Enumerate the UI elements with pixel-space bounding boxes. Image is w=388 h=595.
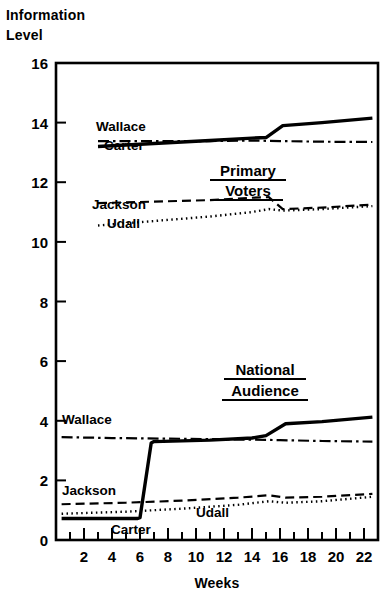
x-tick-label: 20: [328, 548, 345, 565]
y-tick-label: 6: [40, 353, 48, 370]
group-label-national-audience-line1: National: [235, 361, 294, 378]
y-axis-title-line2: Level: [6, 27, 43, 43]
x-axis-title: Weeks: [194, 575, 239, 591]
group-label-national-audience: National Audience: [222, 361, 308, 400]
series-label-udall-primary: Udall: [107, 216, 140, 231]
x-tick-label: 18: [300, 548, 317, 565]
x-tick-label: 4: [108, 548, 117, 565]
x-axis-tick-labels: 246810121416182022: [80, 548, 373, 565]
x-tick-label: 10: [188, 548, 205, 565]
group-label-national-audience-line2: Audience: [231, 382, 299, 399]
y-axis-title-line1: Information: [6, 7, 85, 23]
y-tick-label: 14: [31, 115, 48, 132]
y-tick-label: 10: [31, 234, 48, 251]
y-tick-label: 0: [40, 532, 48, 549]
series-label-jackson-primary: Jackson: [92, 197, 146, 212]
series-label-wallace-primary: Wallace: [96, 119, 146, 134]
group-label-primary-voters-line1: Primary: [220, 162, 277, 179]
chart-svg: Information Level 16 14 12 10 8 6 4 2 0: [0, 0, 388, 595]
series-layer: [62, 118, 373, 518]
x-tick-label: 6: [136, 548, 144, 565]
series-label-wallace-national: Wallace: [62, 412, 112, 427]
x-tick-label: 12: [216, 548, 233, 565]
y-axis-ticks: [56, 63, 66, 540]
plot-frame: [56, 63, 378, 540]
y-axis-tick-labels: 16 14 12 10 8 6 4 2 0: [31, 55, 48, 549]
series-label-udall-national: Udall: [196, 505, 229, 520]
chart-figure: Information Level 16 14 12 10 8 6 4 2 0: [0, 0, 388, 595]
y-tick-label: 16: [31, 55, 48, 72]
y-tick-label: 12: [31, 174, 48, 191]
y-tick-label: 4: [40, 413, 49, 430]
x-tick-label: 22: [356, 548, 373, 565]
group-label-primary-voters-line2: Voters: [225, 182, 271, 199]
series-label-jackson-national: Jackson: [62, 483, 116, 498]
x-tick-label: 16: [272, 548, 289, 565]
group-label-primary-voters: Primary Voters: [210, 162, 286, 200]
x-tick-label: 8: [164, 548, 172, 565]
y-tick-label: 8: [40, 294, 48, 311]
series-label-carter-national: Carter: [111, 522, 152, 537]
series-label-carter-primary: Carter: [104, 138, 145, 153]
x-tick-label: 2: [80, 548, 88, 565]
y-tick-label: 2: [40, 472, 48, 489]
x-tick-label: 14: [244, 548, 261, 565]
